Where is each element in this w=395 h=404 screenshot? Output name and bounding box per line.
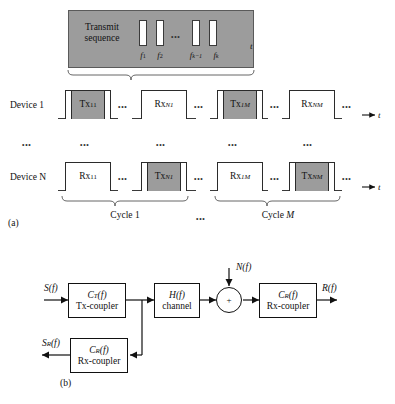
slot-base: Rx xyxy=(79,171,90,181)
slot-base: Tx xyxy=(230,99,241,109)
slot-base: Tx xyxy=(302,171,313,181)
block-rx-coupler-main-caption: Rx-coupler xyxy=(267,301,310,312)
freq-label-f1-sub: 1 xyxy=(143,53,146,59)
slot-device1-tx-11: Tx11 xyxy=(65,90,111,119)
deviceN-ellipsis-trailing: ••• xyxy=(342,175,351,182)
transfer-tail: (f) xyxy=(98,290,107,300)
block-rx-coupler-feedback-caption: Rx-coupler xyxy=(78,356,121,367)
signal-reflected-tail: (f) xyxy=(51,338,60,348)
vertical-ellipsis-col4: ••• xyxy=(303,141,312,148)
signal-label-input: S(f) xyxy=(44,283,58,293)
freq-label-fk: fk xyxy=(206,50,226,60)
block-rx-coupler-feedback[interactable]: CR(f) Rx-coupler xyxy=(70,338,128,373)
slot-deviceN-tx-nm: TxNM xyxy=(289,162,335,191)
slot-deviceN-tx-nm-text: TxNM xyxy=(290,172,334,182)
block-tx-coupler-transfer: CT(f) xyxy=(87,290,106,301)
block-channel[interactable]: H(f) channel xyxy=(154,283,200,318)
transmit-sequence-title-line2: sequence xyxy=(74,33,130,44)
slot-deviceN-rx-1m: Rx1M xyxy=(217,162,263,191)
freq-label-fk-sub: k xyxy=(216,53,219,59)
signal-output-tail: (f) xyxy=(328,283,337,293)
signal-label-noise: N(f) xyxy=(236,262,251,272)
slot-base: Tx xyxy=(79,99,90,109)
vertical-ellipsis-col1: ••• xyxy=(80,141,89,148)
slot-base: Rx xyxy=(230,171,241,181)
transmit-sequence-axis-label: t xyxy=(250,41,253,51)
transmit-sequence-title: Transmit sequence xyxy=(74,22,130,44)
slot-device1-rx-n1-text: RxN1 xyxy=(142,100,186,110)
pulse-f2 xyxy=(156,20,164,46)
signal-label-reflected: SR(f) xyxy=(42,338,60,348)
block-channel-caption: channel xyxy=(162,301,192,312)
summing-junction: + xyxy=(216,287,242,313)
transmit-sequence-brace xyxy=(68,70,254,80)
slot-device1-tx-1m: Tx1M xyxy=(217,90,263,119)
signal-input-tail: (f) xyxy=(49,283,58,293)
cycle-m-base: Cycle xyxy=(262,210,287,220)
block-rx-coupler-main-transfer: CR(f) xyxy=(278,290,297,301)
slot-device1-tx-1m-text: Tx1M xyxy=(218,100,262,110)
pulse-ellipsis: ••• xyxy=(171,33,180,40)
panel-a-tag: (a) xyxy=(8,218,19,228)
block-tx-coupler[interactable]: CT(f) Tx-coupler xyxy=(68,283,126,318)
cycle-gap-ellipsis: ••• xyxy=(196,215,205,222)
slot-sub: NM xyxy=(312,173,322,180)
device-1-label: Device 1 xyxy=(10,100,44,110)
cycle-1-label: Cycle 1 xyxy=(95,210,155,220)
slot-sub: N1 xyxy=(165,173,173,180)
slot-device1-rx-nm-text: RxNM xyxy=(290,100,334,110)
device1-ellipsis-2: ••• xyxy=(194,103,203,110)
slot-deviceN-tx-n1: TxN1 xyxy=(141,162,187,191)
slot-sub: 11 xyxy=(90,173,97,180)
cycle-1-index: 1 xyxy=(135,210,140,220)
device1-ellipsis-1: ••• xyxy=(118,103,127,110)
vertical-ellipsis-col0: ••• xyxy=(22,141,31,148)
block-rx-coupler-feedback-transfer: CR(f) xyxy=(89,345,108,356)
slot-sub: 11 xyxy=(90,101,97,108)
freq-label-fk-1-sub: k−1 xyxy=(192,53,202,59)
block-tx-coupler-caption: Tx-coupler xyxy=(76,301,118,312)
cycle-m-brace xyxy=(215,196,340,206)
freq-label-f2-sub: 2 xyxy=(160,53,163,59)
slot-deviceN-rx-1m-text: Rx1M xyxy=(218,172,262,182)
panel-b-tag: (b) xyxy=(60,378,71,388)
transmit-sequence-title-line1: Transmit xyxy=(74,22,130,33)
transfer-tail: (f) xyxy=(176,290,185,300)
pulse-fk xyxy=(209,20,217,46)
slot-sub: N1 xyxy=(166,101,174,108)
deviceN-ellipsis-1: ••• xyxy=(118,175,127,182)
cycle-1-brace xyxy=(62,196,188,206)
device1-ellipsis-3: ••• xyxy=(270,103,279,110)
slot-base: Rx xyxy=(154,99,165,109)
slot-deviceN-rx-11-text: Rx11 xyxy=(66,172,110,182)
block-rx-coupler-main[interactable]: CR(f) Rx-coupler xyxy=(259,283,317,318)
cycle-m-index: M xyxy=(286,210,294,220)
vertical-ellipsis-col3: ••• xyxy=(228,141,237,148)
pulse-fk-1 xyxy=(192,20,200,46)
slot-device1-rx-n1: RxN1 xyxy=(141,90,187,119)
slot-base: Rx xyxy=(301,99,312,109)
transfer-base: H xyxy=(169,290,176,300)
slot-base: Tx xyxy=(155,171,166,181)
deviceN-ellipsis-2: ••• xyxy=(194,175,203,182)
deviceN-axis-label: t xyxy=(378,182,381,192)
transfer-tail: (f) xyxy=(100,345,109,355)
signal-label-output: R(f) xyxy=(322,283,337,293)
figure-root: Transmit sequence ••• f1 f2 fk−1 fk t De… xyxy=(0,0,395,404)
vertical-ellipsis-col2: ••• xyxy=(156,141,165,148)
block-channel-transfer: H(f) xyxy=(169,290,185,301)
slot-sub: NM xyxy=(312,101,322,108)
slot-deviceN-rx-11: Rx11 xyxy=(65,162,111,191)
freq-label-f2: f2 xyxy=(150,50,170,60)
slot-deviceN-tx-n1-text: TxN1 xyxy=(142,172,186,182)
pulse-f1 xyxy=(139,20,147,46)
slot-sub: 1M xyxy=(241,173,250,180)
device1-axis-label: t xyxy=(378,110,381,120)
slot-sub: 1M xyxy=(241,101,250,108)
deviceN-ellipsis-3: ••• xyxy=(270,175,279,182)
device-n-label: Device N xyxy=(10,172,46,182)
slot-device1-rx-nm: RxNM xyxy=(289,90,335,119)
signal-noise-tail: (f) xyxy=(242,262,251,272)
cycle-m-label: Cycle M xyxy=(248,210,308,220)
cycle-1-base: Cycle xyxy=(110,210,135,220)
